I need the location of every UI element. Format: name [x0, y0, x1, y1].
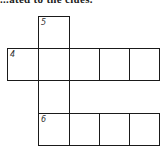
crossword-cell-6-across-1[interactable]: 6 — [38, 113, 70, 146]
instructions-text: ...ated to the clues. — [0, 0, 162, 5]
crossword-cell-4-across-1[interactable]: 4 — [7, 48, 39, 81]
crossword-cell-4-across-2[interactable] — [38, 48, 70, 81]
crossword-cell-4-across-4[interactable] — [99, 48, 130, 81]
crossword-cell-4-across-3[interactable] — [69, 48, 100, 81]
crossword-cell-5-down-1[interactable]: 5 — [38, 16, 70, 49]
clue-number-5: 5 — [41, 18, 46, 27]
crossword-cell-6-across-3[interactable] — [99, 113, 130, 146]
crossword-cell-5-down-3[interactable] — [38, 80, 70, 114]
clue-number-4: 4 — [10, 50, 15, 59]
crossword-cell-6-across-2[interactable] — [69, 113, 100, 146]
crossword-cell-6-across-4[interactable] — [129, 113, 160, 146]
clue-number-6: 6 — [41, 115, 46, 124]
crossword-cell-4-across-5[interactable] — [129, 48, 160, 81]
